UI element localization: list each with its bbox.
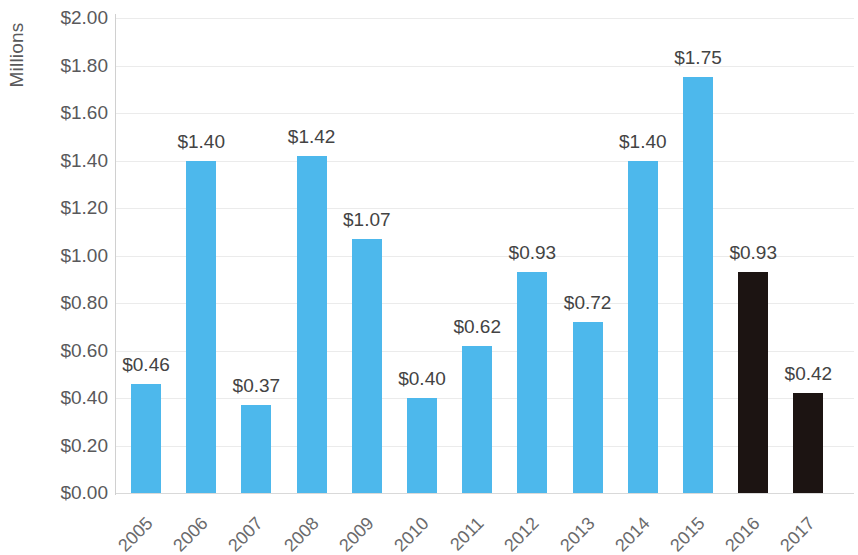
x-axis-tick-label-2012: 2012 [482, 513, 544, 555]
x-axis-tick-label-2010: 2010 [372, 513, 434, 555]
x-axis-tick-label-2017: 2017 [758, 513, 820, 555]
x-axis-tick-labels: 2005200620072008200920102011201220132014… [0, 0, 858, 555]
x-axis-tick-label-2005: 2005 [96, 513, 158, 555]
bar-chart: Millions $0.00$0.20$0.40$0.60$0.80$1.00$… [0, 0, 858, 555]
x-axis-tick-label-2009: 2009 [317, 513, 379, 555]
x-axis-tick-label-2014: 2014 [593, 513, 655, 555]
x-axis-tick-label-2011: 2011 [427, 513, 489, 555]
x-axis-tick-label-2007: 2007 [206, 513, 268, 555]
x-axis-tick-label-2015: 2015 [648, 513, 710, 555]
x-axis-tick-label-2013: 2013 [538, 513, 600, 555]
x-axis-tick-label-2008: 2008 [262, 513, 324, 555]
x-axis-tick-label-2006: 2006 [151, 513, 213, 555]
x-axis-tick-label-2016: 2016 [703, 513, 765, 555]
